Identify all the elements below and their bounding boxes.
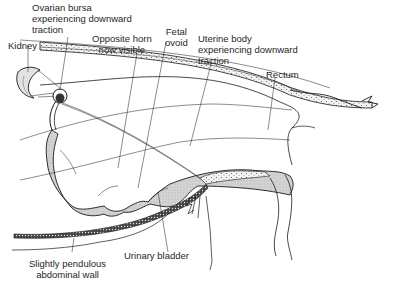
label-urinary-bladder: Urinary bladder	[124, 250, 189, 261]
label-opposite-horn: Opposite horn now visible	[92, 33, 152, 55]
label-fetal-ovoid: Fetal ovoid	[165, 26, 188, 48]
anatomy-diagram: Ovarian bursa experiencing downward trac…	[0, 0, 395, 289]
label-ovarian-bursa: Ovarian bursa experiencing downward trac…	[32, 2, 152, 35]
label-rectum: Rectum	[266, 69, 299, 80]
rectum	[40, 77, 315, 165]
label-uterine-body: Uterine body experiencing downward tract…	[198, 33, 298, 66]
label-abdominal-wall: Slightly pendulous abdominal wall	[29, 258, 106, 280]
prepuce-hair	[186, 196, 212, 270]
label-kidney: Kidney	[8, 40, 37, 51]
ovarian-bursa	[50, 89, 67, 130]
